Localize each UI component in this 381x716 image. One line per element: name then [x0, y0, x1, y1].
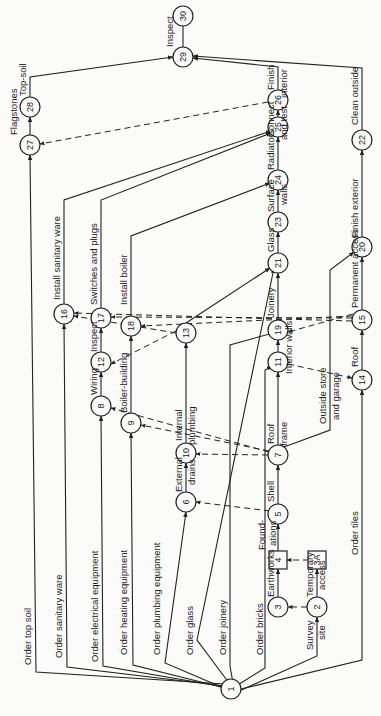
label-found: Found-: [256, 520, 267, 550]
node-29: 29: [173, 47, 193, 67]
label-install-sanitary: Install sanitary ware: [51, 216, 62, 300]
svg-text:14: 14: [357, 375, 367, 385]
label-order-tiles: Order tiles: [349, 511, 360, 555]
label-access: access: [316, 560, 327, 590]
svg-text:3: 3: [273, 604, 283, 609]
edge-order-joinery: [230, 333, 273, 683]
main-chain-edges: [30, 26, 362, 597]
node-22: 22: [352, 130, 372, 150]
nodes: 1 2 3 3A 4 5 6 7 8 9 10 11 12 13 14 15 1…: [20, 6, 372, 699]
label-ations: ations: [267, 520, 278, 546]
node-7: 7: [268, 445, 288, 465]
node-2: 2: [307, 597, 327, 617]
label-internal: Internal: [173, 409, 184, 441]
dummy-edges: [40, 102, 353, 607]
label-inspect-a: Inspect: [88, 321, 99, 352]
label-switches-plugs: Switches and plugs: [88, 223, 99, 305]
label-finish-exterior: Finish exterior: [349, 178, 360, 238]
svg-text:2: 2: [312, 604, 322, 609]
label-order-bricks: Order bricks: [254, 603, 265, 655]
label-boiler-building: Boiler-building: [118, 353, 129, 413]
label-interior: interior: [278, 69, 289, 98]
svg-text:6: 6: [181, 499, 191, 504]
svg-text:1: 1: [226, 686, 236, 691]
label-clean-outside: Clean outside: [349, 67, 360, 125]
edge-top-soil: [30, 57, 173, 97]
label-order-glass: Order glass: [184, 606, 195, 655]
label-external: External: [173, 457, 184, 492]
node-15: 15: [352, 310, 372, 330]
label-install-boiler: Install boiler: [118, 254, 129, 305]
label-order-joinery: Order joinery: [217, 600, 228, 655]
node-21: 21: [268, 253, 288, 273]
label-and-garage: and garage: [330, 372, 341, 420]
label-inspect-b: Inspect: [164, 16, 175, 47]
label-roof-b: Roof: [349, 347, 360, 367]
label-glass: Glass: [265, 227, 276, 252]
label-temporary: Temporary: [304, 552, 315, 597]
svg-text:22: 22: [357, 135, 367, 145]
label-outside-store: Outside store: [317, 368, 328, 425]
node-1: 1: [221, 679, 241, 699]
node-28: 28: [20, 97, 40, 117]
node-30: 30: [173, 6, 193, 26]
svg-text:21: 21: [273, 258, 283, 268]
label-order-plumbing: Order plumbing equipment: [151, 542, 162, 655]
svg-text:5: 5: [273, 511, 283, 516]
svg-text:19: 19: [273, 325, 283, 335]
svg-text:15: 15: [357, 315, 367, 325]
svg-text:13: 13: [181, 328, 191, 338]
svg-text:18: 18: [126, 321, 136, 331]
label-order-sanitary-ware: Order sanitary ware: [53, 575, 64, 658]
svg-text:28: 28: [25, 102, 35, 112]
svg-text:16: 16: [59, 309, 69, 319]
label-finish: Finish: [265, 65, 276, 90]
svg-text:8: 8: [96, 403, 106, 408]
svg-text:12: 12: [96, 357, 106, 367]
svg-text:9: 9: [126, 420, 136, 425]
svg-text:30: 30: [178, 11, 188, 21]
label-joinery: Joinery: [265, 287, 276, 318]
label-wiring: Wiring: [88, 368, 99, 395]
svg-text:10: 10: [181, 448, 191, 458]
label-site: site: [316, 625, 327, 640]
node-6: 6: [176, 492, 196, 512]
label-earthworks: Earthworks: [265, 549, 276, 597]
node-16: 16: [54, 304, 74, 324]
node-8: 8: [91, 396, 111, 416]
svg-text:29: 29: [178, 52, 188, 62]
edge-install-boiler: [131, 183, 270, 316]
label-walls: walls: [278, 184, 289, 206]
node-13: 13: [176, 323, 196, 343]
node-3: 3: [268, 597, 288, 617]
label-survey: Survey: [304, 620, 315, 650]
node-18: 18: [121, 316, 141, 336]
label-interior-walls: Interior walls: [283, 320, 294, 374]
svg-text:23: 23: [273, 217, 283, 227]
label-and-test: and test: [278, 106, 289, 140]
network-diagram: 1 2 3 3A 4 5 6 7 8 9 10 11 12 13 14 15 1…: [0, 0, 381, 716]
label-plumbing: plumbing: [186, 406, 197, 445]
label-order-electrical: Order electrical equipment: [89, 550, 100, 662]
label-connect: Connect: [265, 101, 276, 137]
label-roof-a: Roof: [265, 424, 276, 444]
label-order-heating: Order heating equipment: [118, 550, 129, 655]
label-order-top-soil: Order top soil: [22, 608, 33, 665]
node-14: 14: [352, 370, 372, 390]
node-9: 9: [121, 413, 141, 433]
svg-text:11: 11: [273, 357, 283, 366]
label-top-soil: Top-soil: [17, 63, 28, 96]
label-shell: Shell: [265, 481, 276, 502]
edge-13-to-21: [186, 268, 270, 323]
svg-text:7: 7: [273, 452, 283, 457]
svg-text:27: 27: [25, 140, 35, 150]
label-frame: frame: [278, 422, 289, 446]
label-permanent-access: Permanent access: [349, 229, 360, 308]
label-drains: drains: [186, 459, 197, 485]
node-27: 27: [20, 135, 40, 155]
label-surface: Surface: [265, 179, 276, 212]
